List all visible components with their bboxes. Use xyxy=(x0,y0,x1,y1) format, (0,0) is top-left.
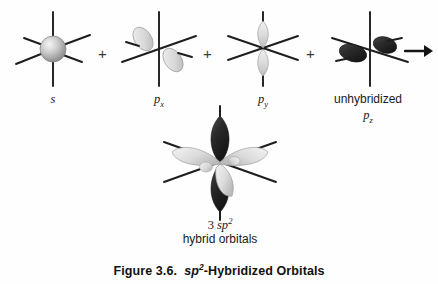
sp2-hybrid-graphic xyxy=(150,104,290,222)
px-orbital-graphic xyxy=(116,8,202,90)
figure-root: s + xyxy=(0,0,438,284)
sp2-node-right xyxy=(228,157,240,166)
orbital-label-s-text: s xyxy=(51,92,56,106)
hybrid-orbitals-caption: hybrid orbitals xyxy=(150,232,290,246)
pz-orbital-graphic xyxy=(322,8,414,90)
py-orbital-graphic xyxy=(220,8,306,90)
py-lobe-upper xyxy=(258,21,269,48)
caption-suffix: -Hybridized Orbitals xyxy=(204,264,325,278)
arrow-right-icon xyxy=(404,42,434,60)
plus-operator-2: + xyxy=(203,46,212,61)
py-lobe-lower xyxy=(258,49,269,76)
pz-lobe-left xyxy=(337,41,369,65)
orbital-py: py xyxy=(220,8,306,108)
result-arrow xyxy=(404,42,434,60)
s-orbital-graphic xyxy=(10,8,96,90)
plus-operator-3: + xyxy=(306,46,315,61)
sp2-node-left xyxy=(200,162,213,172)
orbital-label-s: s xyxy=(10,92,96,106)
pz-lobe-right xyxy=(371,34,398,56)
hybrid-count-term: sp xyxy=(217,218,228,232)
orbital-s: s xyxy=(10,8,96,108)
hybrid-count-sup: 2 xyxy=(228,216,232,226)
orbital-label-pz-sub: z xyxy=(369,115,372,125)
orbital-pz: unhybridized pz xyxy=(322,8,414,128)
orbital-label-pz-prefix: unhybridized xyxy=(322,92,414,106)
hybrid-count-label: 3 sp2 xyxy=(150,216,290,233)
orbital-sp2-hybrid: 3 sp2 hybrid orbitals xyxy=(150,104,290,254)
orbital-label-pz: pz xyxy=(322,108,414,125)
plus-operator-1: + xyxy=(98,46,107,61)
sp2-pz-lobe-upper xyxy=(211,116,229,163)
caption-prefix: Figure 3.6. xyxy=(113,264,177,278)
caption-term: sp xyxy=(184,264,199,278)
orbital-px: px xyxy=(116,8,202,108)
figure-caption: Figure 3.6. sp2-Hybridized Orbitals xyxy=(0,262,438,278)
